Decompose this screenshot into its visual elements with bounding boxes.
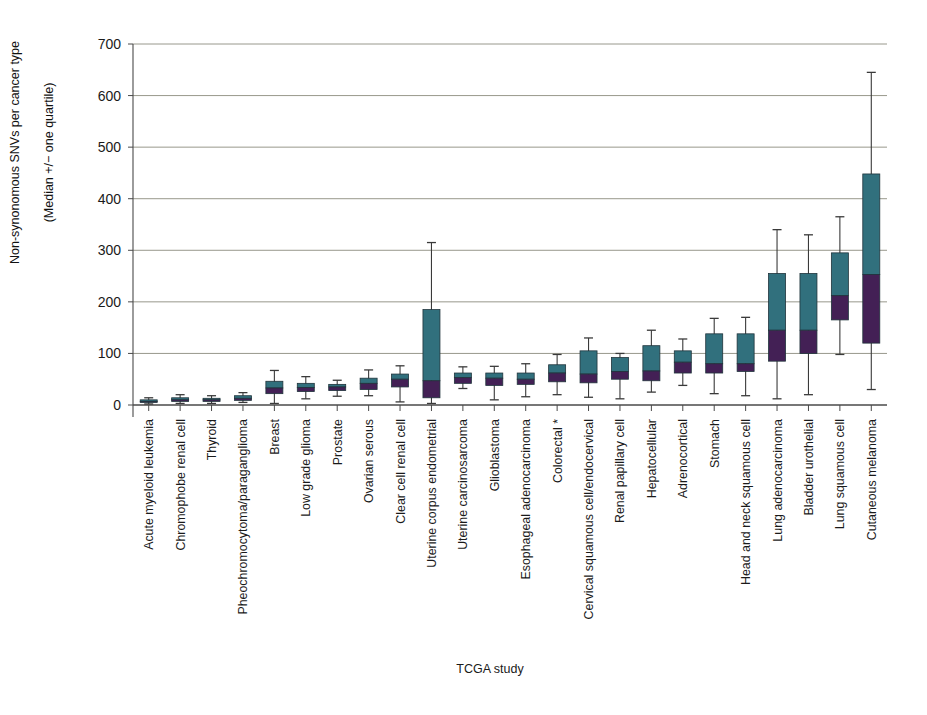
box-group xyxy=(674,339,691,385)
box-lower-quartile xyxy=(234,398,251,400)
box-group xyxy=(203,396,220,404)
box-group xyxy=(172,395,189,404)
box-group xyxy=(580,338,597,397)
x-tick-label: Stomach xyxy=(708,419,722,468)
box-group xyxy=(737,317,754,395)
box-upper-quartile xyxy=(737,334,754,364)
box-lower-quartile xyxy=(769,330,786,361)
x-tick-label: Cervical squamous cell/endocervical xyxy=(582,419,596,619)
box-lower-quartile xyxy=(863,275,880,344)
x-tick-label: Breast xyxy=(268,418,282,454)
x-tick-label: Clear cell renal cell xyxy=(394,419,408,524)
box-lower-quartile xyxy=(580,374,597,383)
box-group xyxy=(800,235,817,395)
box-group xyxy=(611,353,628,398)
box-upper-quartile xyxy=(800,273,817,330)
x-tick-label: Glioblastoma xyxy=(488,419,502,491)
box-group xyxy=(360,370,377,396)
box-lower-quartile xyxy=(517,379,534,384)
x-tick-label: Pheochromocytoma/paraganglioma xyxy=(236,419,250,615)
box-lower-quartile xyxy=(423,381,440,398)
x-tick-label: Hepatocellular xyxy=(645,419,659,498)
x-tick-label: Chromophobe renal cell xyxy=(174,419,188,551)
box-lower-quartile xyxy=(360,383,377,389)
box-lower-quartile xyxy=(454,378,471,384)
y-tick-label-700: 700 xyxy=(98,36,122,52)
x-tick-label: Colorectal * xyxy=(551,419,565,483)
x-axis-title: TCGA study xyxy=(456,662,524,676)
box-upper-quartile xyxy=(360,378,377,383)
box-upper-quartile xyxy=(674,351,691,362)
box-group xyxy=(643,330,660,392)
x-tick-label: Uterine corpus endometrial xyxy=(425,419,439,568)
y-tick-label-100: 100 xyxy=(98,345,122,361)
box-group xyxy=(831,217,848,355)
x-tick-label: Head and neck squamous cell xyxy=(739,419,753,585)
y-tick-label-500: 500 xyxy=(98,139,122,155)
box-lower-quartile xyxy=(297,387,314,391)
box-lower-quartile xyxy=(611,371,628,379)
box-group xyxy=(517,364,534,397)
x-tick-label: Adrenocortical xyxy=(676,419,690,498)
box-upper-quartile xyxy=(392,374,409,379)
box-upper-quartile xyxy=(863,174,880,275)
boxplot-svg: 0100200300400500600700Acute myeloid leuk… xyxy=(0,0,927,715)
box-lower-quartile xyxy=(737,364,754,372)
box-lower-quartile xyxy=(800,330,817,353)
y-tick-label-200: 200 xyxy=(98,294,122,310)
x-tick-label: Lung squamous cell xyxy=(833,419,847,529)
box-upper-quartile xyxy=(643,346,660,371)
box-lower-quartile xyxy=(486,378,503,385)
box-group xyxy=(297,377,314,399)
box-upper-quartile xyxy=(266,381,283,388)
x-tick-label: Prostate xyxy=(331,419,345,465)
box-group xyxy=(392,366,409,402)
box-upper-quartile xyxy=(486,373,503,378)
x-tick-label: Ovarian serous xyxy=(362,419,376,503)
box-upper-quartile xyxy=(580,351,597,374)
box-upper-quartile xyxy=(831,253,848,296)
x-tick-label: Acute myeloid leukemia xyxy=(142,419,156,550)
box-group xyxy=(863,72,880,389)
box-group xyxy=(486,366,503,400)
box-lower-quartile xyxy=(643,371,660,381)
box-upper-quartile xyxy=(423,310,440,381)
box-group xyxy=(769,230,786,399)
box-group xyxy=(266,370,283,403)
x-tick-label: Uterine carcinosarcoma xyxy=(456,419,470,550)
plot-area: 0100200300400500600700Acute myeloid leuk… xyxy=(0,0,927,715)
x-tick-label: Cutaneous melanoma xyxy=(865,419,879,540)
x-tick-label: Renal papillary cell xyxy=(613,419,627,523)
y-tick-label-0: 0 xyxy=(113,397,121,413)
box-group xyxy=(423,243,440,404)
box-upper-quartile xyxy=(297,383,314,387)
box-lower-quartile xyxy=(140,401,157,402)
box-lower-quartile xyxy=(674,362,691,373)
box-upper-quartile xyxy=(517,373,534,379)
box-lower-quartile xyxy=(392,379,409,387)
box-group xyxy=(329,380,346,396)
box-upper-quartile xyxy=(549,365,566,373)
box-lower-quartile xyxy=(706,364,723,373)
x-tick-label: Esophageal adenocarcinoma xyxy=(519,419,533,580)
chart-figure: Non-synonomous SNVs per cancer type (Med… xyxy=(0,0,927,715)
box-lower-quartile xyxy=(831,296,848,320)
x-tick-label: Thyroid xyxy=(205,419,219,460)
box-lower-quartile xyxy=(329,387,346,391)
box-group xyxy=(706,318,723,393)
box-lower-quartile xyxy=(203,400,220,402)
box-group xyxy=(454,367,471,389)
y-tick-label-300: 300 xyxy=(98,242,122,258)
box-group xyxy=(140,398,157,404)
box-upper-quartile xyxy=(454,373,471,378)
x-tick-label: Bladder urothelial xyxy=(802,419,816,515)
box-lower-quartile xyxy=(549,373,566,382)
y-tick-label-400: 400 xyxy=(98,191,122,207)
box-upper-quartile xyxy=(611,358,628,372)
x-tick-label: Lung adenocarcinoma xyxy=(771,419,785,542)
y-tick-label-600: 600 xyxy=(98,88,122,104)
box-group xyxy=(549,354,566,394)
x-tick-label: Low grade glioma xyxy=(299,419,313,517)
box-lower-quartile xyxy=(172,400,189,402)
box-upper-quartile xyxy=(769,273,786,330)
